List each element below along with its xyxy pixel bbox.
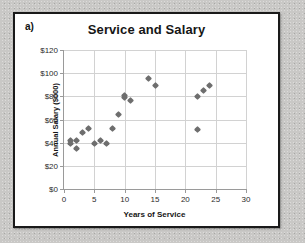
- data-point: [67, 140, 74, 147]
- x-tick: [125, 189, 126, 193]
- x-tick-label: 30: [242, 195, 251, 204]
- y-tick-label: $60: [45, 115, 58, 124]
- x-tick: [185, 189, 186, 193]
- y-tick-label: $20: [45, 161, 58, 170]
- y-tick: [60, 73, 64, 74]
- y-tick: [60, 96, 64, 97]
- data-point: [194, 126, 201, 133]
- x-tick-label: 15: [151, 195, 160, 204]
- x-tick: [216, 189, 217, 193]
- y-tick-label: $100: [40, 69, 58, 78]
- gridline-vertical: [125, 50, 126, 189]
- y-tick-label: $120: [40, 46, 58, 55]
- data-point: [103, 140, 110, 147]
- data-point: [206, 82, 213, 89]
- x-tick: [246, 189, 247, 193]
- x-tick-label: 5: [92, 195, 96, 204]
- data-point: [200, 87, 207, 94]
- x-tick-label: 25: [211, 195, 220, 204]
- x-tick-label: 0: [62, 195, 66, 204]
- y-tick-label: $80: [45, 92, 58, 101]
- data-point: [73, 145, 80, 152]
- x-tick-label: 10: [120, 195, 129, 204]
- y-tick-label: $0: [49, 185, 58, 194]
- y-tick: [60, 50, 64, 51]
- gridline-vertical: [155, 50, 156, 189]
- x-tick: [155, 189, 156, 193]
- x-tick-label: 20: [181, 195, 190, 204]
- data-point: [109, 125, 116, 132]
- data-point: [85, 125, 92, 132]
- gridline-vertical: [216, 50, 217, 189]
- y-tick: [60, 143, 64, 144]
- y-tick-label: $40: [45, 138, 58, 147]
- chart-title: Service and Salary: [15, 22, 278, 37]
- scatter-plot: Annual Salary ($000) $0$20$40$60$80$100$…: [63, 50, 246, 190]
- gridline-vertical: [246, 50, 247, 189]
- y-tick: [60, 166, 64, 167]
- data-point: [127, 97, 134, 104]
- gridline-vertical: [94, 50, 95, 189]
- figure-card: a) Service and Salary Annual Salary ($00…: [13, 12, 280, 228]
- x-tick: [64, 189, 65, 193]
- data-point: [145, 75, 152, 82]
- x-tick: [94, 189, 95, 193]
- x-axis-title: Years of Service: [63, 210, 246, 219]
- gridline-vertical: [185, 50, 186, 189]
- data-point: [79, 129, 86, 136]
- y-tick: [60, 120, 64, 121]
- data-point: [115, 111, 122, 118]
- data-point: [194, 93, 201, 100]
- plot-area: $0$20$40$60$80$100$120 051015202530: [63, 50, 246, 190]
- data-point: [151, 82, 158, 89]
